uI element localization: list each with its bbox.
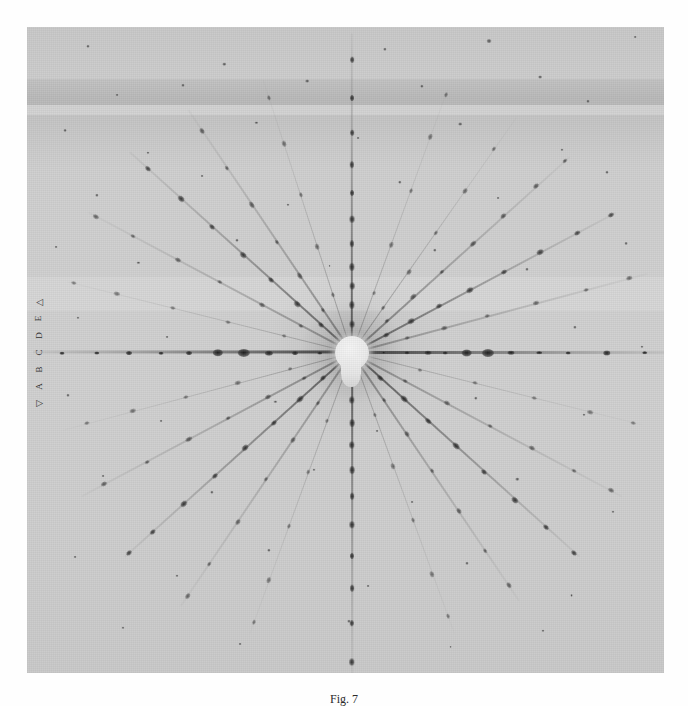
diffraction-spot [350, 621, 354, 627]
diffraction-spot [282, 334, 287, 338]
beam-stop-stem [341, 357, 361, 387]
diffraction-spot [186, 351, 192, 355]
diffraction-spot [265, 350, 273, 355]
diffraction-spot [349, 521, 354, 528]
stray-spot [274, 400, 277, 403]
stray-spot [137, 262, 140, 265]
edge-scale-glyph: C [34, 350, 43, 356]
diffraction-spot [318, 351, 323, 354]
radial-streak [33, 351, 352, 354]
diffraction-spot [126, 351, 132, 355]
diffraction-spot [350, 282, 355, 289]
figure-page: △EDCBA▽ Fig. 7 [0, 0, 688, 706]
diffraction-spot [630, 421, 635, 425]
edge-scale-glyph: A [35, 383, 44, 390]
diffraction-spot [59, 351, 64, 354]
diffraction-spot [158, 351, 163, 354]
diffraction-spot [349, 419, 354, 427]
diffraction-spot [443, 351, 448, 354]
diffraction-spot [508, 350, 515, 355]
diffraction-spot [642, 351, 648, 355]
diffraction-plate: △EDCBA▽ [27, 27, 664, 673]
stray-spot [383, 48, 386, 51]
figure-caption: Fig. 7 [0, 692, 688, 706]
diffraction-spot [417, 368, 422, 372]
diffraction-spot [350, 161, 354, 168]
diffraction-spot [350, 57, 354, 63]
diffraction-spot [349, 301, 354, 309]
diffraction-spot [350, 585, 354, 592]
stray-spot [634, 36, 637, 38]
diffraction-spot [425, 350, 432, 355]
stray-spot [538, 76, 542, 79]
diffraction-spot [350, 95, 354, 101]
diffraction-spot [349, 263, 354, 271]
diffraction-spot [95, 351, 100, 354]
diffraction-spot [536, 351, 542, 355]
stray-spot [210, 491, 213, 494]
diffraction-spot [349, 215, 354, 222]
diffraction-spot [350, 658, 355, 665]
edge-scale-markings: △EDCBA▽ [27, 298, 51, 408]
stray-spot [420, 85, 423, 88]
diffraction-spot [461, 349, 472, 356]
diffraction-spot [213, 349, 223, 356]
diffraction-spot [350, 493, 354, 500]
diffraction-spot [350, 130, 354, 136]
edge-scale-glyph: D [35, 332, 44, 339]
stray-spot [458, 122, 462, 125]
diffraction-spot [238, 349, 250, 357]
radial-streak [351, 89, 448, 353]
stray-spot [267, 549, 270, 552]
stray-spot [486, 39, 491, 43]
edge-scale-glyph: △ [35, 299, 44, 306]
diffraction-spot [349, 466, 354, 474]
stray-spot [573, 326, 576, 329]
stray-spot [347, 620, 350, 623]
diffraction-spot [292, 351, 298, 355]
stray-spot [305, 80, 309, 83]
stray-spot [255, 121, 258, 124]
diffraction-spot [350, 441, 355, 448]
edge-scale-glyph: B [34, 366, 43, 372]
edge-scale-glyph: E [35, 316, 44, 322]
edge-scale-glyph: ▽ [35, 400, 44, 407]
diffraction-spot [566, 351, 571, 354]
diffraction-spot [349, 320, 354, 327]
stray-spot [95, 194, 98, 197]
radial-streak [351, 352, 520, 601]
